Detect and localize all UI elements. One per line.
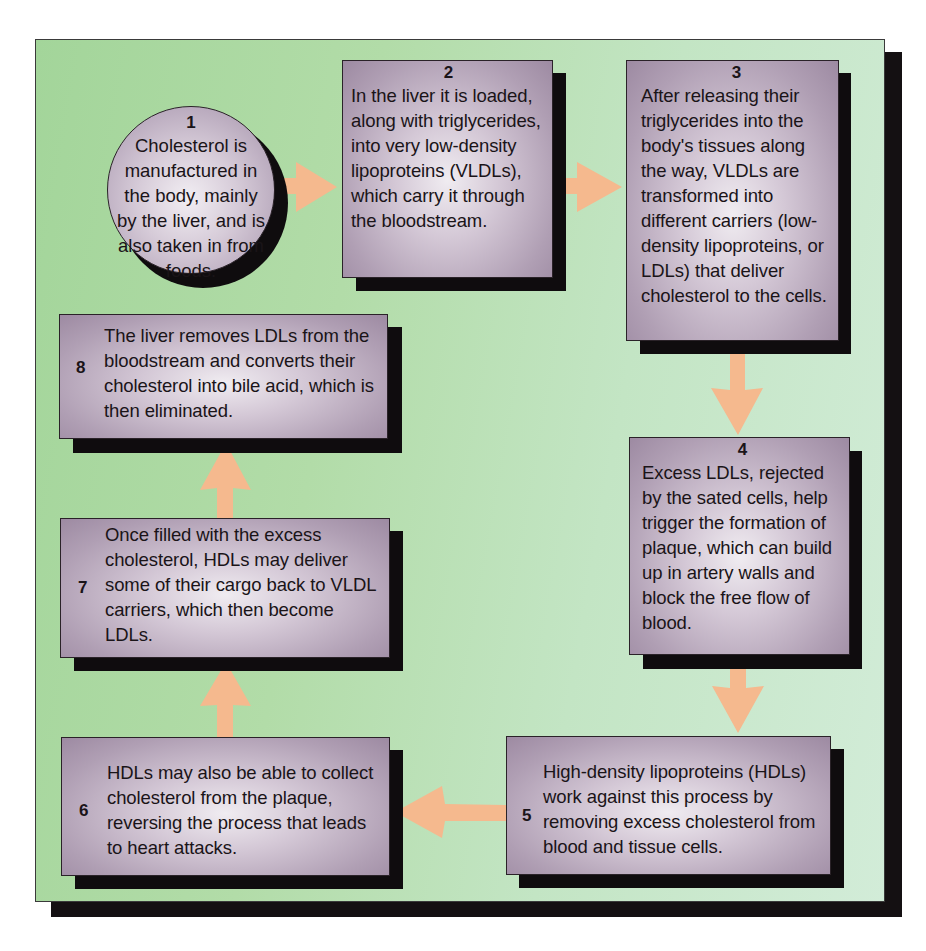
step-5-text: High-density lipoproteins (HDLs) work ag… [543,759,826,859]
step-8-number: 8 [76,355,85,380]
step-1-text: Cholesterol is manufactured in the body,… [116,133,266,283]
step-4-box: 4 Excess LDLs, rejected by the sated cel… [629,437,850,655]
step-8-text: The liver removes LDLs from the bloodstr… [104,323,381,423]
step-3-box: 3 After releasing their triglycerides in… [626,60,839,341]
step-2-number: 2 [351,63,546,83]
step-7-box: 7 Once filled with the excess cholestero… [60,518,390,658]
step-7-number: 7 [78,575,87,600]
step-5-number: 5 [522,803,531,828]
step-2-text: In the liver it is loaded, along with tr… [351,83,546,233]
step-3-text: After releasing their triglycerides into… [641,83,832,308]
step-4-number: 4 [642,440,843,460]
step-6-box: 6 HDLs may also be able to collect chole… [61,737,390,876]
step-8-box: 8 The liver removes LDLs from the bloods… [59,314,388,439]
step-3-number: 3 [641,63,832,83]
step-6-text: HDLs may also be able to collect cholest… [107,760,383,860]
step-2-box: 2 In the liver it is loaded, along with … [342,60,553,278]
step-7-text: Once filled with the excess cholesterol,… [105,522,383,647]
step-5-box: 5 High-density lipoproteins (HDLs) work … [506,736,831,875]
step-1-circle: 1 Cholesterol is manufactured in the bod… [107,106,275,274]
step-1-number: 1 [108,113,274,133]
step-4-text: Excess LDLs, rejected by the sated cells… [642,460,843,635]
step-6-number: 6 [79,798,88,823]
